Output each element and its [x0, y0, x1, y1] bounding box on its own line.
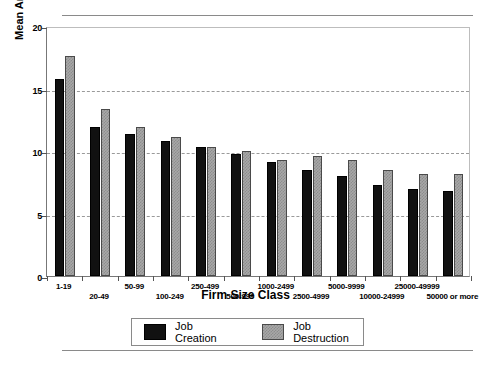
legend-swatch-job-creation: [144, 324, 166, 340]
bar-job-destruction: [383, 170, 393, 276]
bar-job-destruction: [171, 137, 181, 276]
bar-job-destruction: [313, 156, 323, 276]
y-tick-label-20: 20: [32, 23, 42, 33]
legend-label-job-creation: Job Creation: [175, 320, 232, 344]
y-axis-title-container: Mean Annual Rates, 1973-1988: [14, 27, 28, 277]
x-tick-mark: [224, 276, 225, 281]
bar-group: [337, 28, 357, 276]
bar-group: [267, 28, 287, 276]
bar-group: [196, 28, 216, 276]
x-tick-mark: [259, 276, 260, 281]
bar-groups: [47, 28, 469, 276]
bar-job-creation: [302, 170, 312, 276]
x-tick-mark: [400, 276, 401, 281]
x-axis-title: Firm Size Class: [0, 288, 491, 302]
bar-group: [302, 28, 322, 276]
bar-job-creation: [55, 79, 65, 277]
bar-job-creation: [337, 176, 347, 276]
bar-job-destruction: [419, 174, 429, 277]
figure: Mean Annual Rates, 1973-1988 05101520 1-…: [0, 0, 491, 365]
bar-job-destruction: [348, 160, 358, 276]
bar-job-destruction: [136, 127, 146, 276]
x-tick-mark: [118, 276, 119, 281]
x-tick-mark: [436, 276, 437, 281]
bar-job-destruction: [242, 151, 252, 276]
bar-job-destruction: [454, 174, 464, 277]
bar-group: [231, 28, 251, 276]
bar-job-creation: [408, 189, 418, 277]
x-tick-mark: [153, 276, 154, 281]
x-tick-mark: [47, 276, 48, 281]
bar-job-destruction: [65, 56, 75, 276]
x-tick-mark: [330, 276, 331, 281]
x-tick-mark: [188, 276, 189, 281]
bar-job-destruction: [101, 109, 111, 277]
legend: Job Creation Job Destruction: [131, 318, 364, 346]
bar-job-creation: [125, 134, 135, 277]
y-tick-label-15: 15: [32, 86, 42, 96]
legend-item-job-creation: Job Creation: [144, 320, 232, 344]
y-tick-label-0: 0: [37, 273, 42, 283]
bottom-divider-rule: [62, 350, 473, 351]
bar-group: [161, 28, 181, 276]
bar-job-destruction: [207, 147, 217, 276]
y-tick-label-10: 10: [32, 148, 42, 158]
bar-job-creation: [90, 127, 100, 276]
legend-item-job-destruction: Job Destruction: [262, 320, 363, 344]
y-axis-title: Mean Annual Rates, 1973-1988: [13, 0, 25, 70]
bar-job-destruction: [277, 160, 287, 276]
plot-area: 05101520: [46, 27, 470, 277]
bar-group: [443, 28, 463, 276]
bar-group: [125, 28, 145, 276]
x-tick-mark: [471, 276, 472, 281]
bar-job-creation: [196, 147, 206, 276]
bar-group: [408, 28, 428, 276]
y-tick-label-5: 5: [37, 211, 42, 221]
legend-label-job-destruction: Job Destruction: [293, 320, 363, 344]
x-tick-mark: [365, 276, 366, 281]
x-tick-mark: [294, 276, 295, 281]
bar-group: [90, 28, 110, 276]
bar-job-creation: [267, 162, 277, 276]
bar-job-creation: [231, 154, 241, 277]
bar-job-creation: [373, 185, 383, 276]
bar-group: [373, 28, 393, 276]
bar-job-creation: [443, 191, 453, 276]
x-tick-mark: [82, 276, 83, 281]
bar-job-creation: [161, 141, 171, 276]
bar-group: [55, 28, 75, 276]
legend-swatch-job-destruction: [262, 324, 284, 340]
top-divider-rule: [62, 15, 473, 16]
